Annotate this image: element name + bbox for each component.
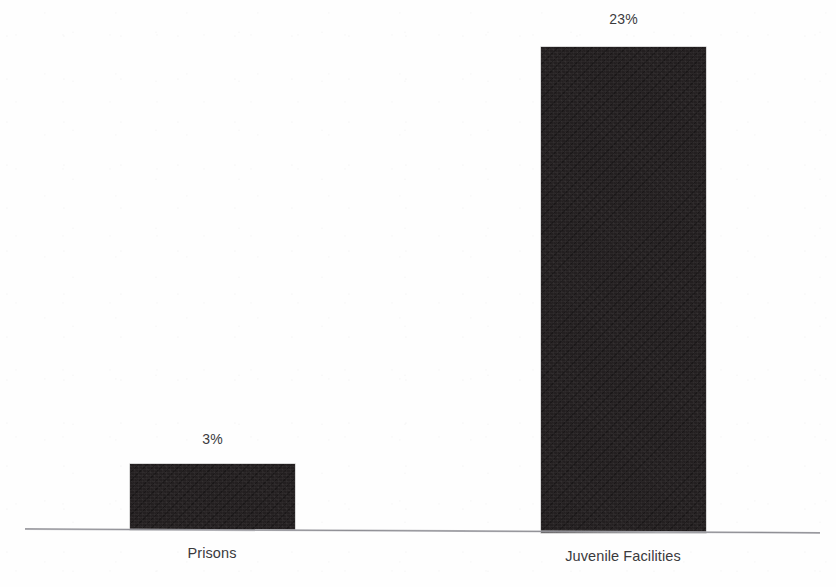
bar-juvenile-facilities bbox=[541, 47, 706, 533]
bar-prisons bbox=[130, 464, 295, 530]
plot-area: 3% 23% Prisons Juvenile Facilities bbox=[0, 0, 836, 587]
bar-value-label-juvenile-facilities: 23% bbox=[541, 11, 706, 27]
category-label-prisons: Prisons bbox=[122, 545, 302, 561]
bar-value-label-prisons: 3% bbox=[130, 431, 295, 447]
category-label-juvenile-facilities: Juvenile Facilities bbox=[523, 548, 723, 564]
bar-chart: 3% 23% Prisons Juvenile Facilities bbox=[0, 0, 836, 587]
